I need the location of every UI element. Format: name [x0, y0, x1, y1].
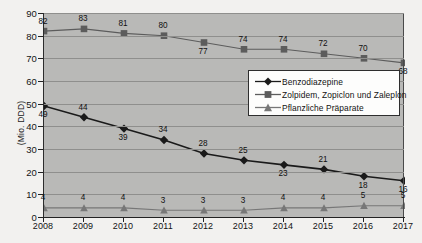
data-point-marker: [80, 113, 88, 121]
data-point-label: 49: [38, 110, 47, 119]
gridline: [44, 36, 404, 37]
x-tick-label: 2013: [233, 221, 253, 231]
x-tick-label: 2008: [33, 221, 53, 231]
y-tick-label: 70: [11, 53, 37, 64]
y-tick-mark: [38, 81, 43, 82]
x-tick-label: 2010: [113, 221, 133, 231]
data-point-label: 23: [278, 169, 287, 178]
gridline: [44, 58, 404, 59]
y-axis-tick-labels: 0102030405060708090: [9, 0, 37, 243]
data-point-marker: [321, 51, 328, 58]
data-point-label: 3: [241, 196, 246, 205]
square-marker-icon: [254, 88, 282, 101]
data-point-marker: [240, 156, 248, 164]
x-tick-label: 2009: [73, 221, 93, 231]
data-point-marker: [81, 26, 88, 33]
data-point-marker: [280, 161, 288, 169]
data-point-label: 82: [38, 17, 47, 26]
x-axis-line: [43, 217, 405, 219]
gridline: [44, 126, 404, 127]
x-tick-label: 2017: [393, 221, 413, 231]
y-tick-mark: [38, 149, 43, 150]
x-tick-mark: [163, 218, 164, 222]
y-tick-mark: [38, 172, 43, 173]
data-point-label: 39: [118, 133, 127, 142]
legend-label-zolpidem: Zolpidem, Zopiclon und Zaleplon: [282, 90, 407, 100]
data-point-label: 21: [318, 155, 327, 164]
data-point-marker: [360, 172, 368, 180]
data-point-label: 4: [281, 193, 286, 202]
data-point-label: 28: [198, 139, 207, 148]
y-tick-label: 60: [11, 76, 37, 87]
chart-legend: Benzodiazepine Zolpidem, Zopiclon und Za…: [248, 70, 400, 116]
data-point-label: 77: [198, 47, 207, 56]
x-tick-label: 2014: [273, 221, 293, 231]
y-tick-mark: [38, 36, 43, 37]
x-tick-mark: [243, 218, 244, 222]
data-point-marker: [241, 46, 248, 53]
data-point-label: 18: [358, 181, 367, 190]
x-tick-mark: [323, 218, 324, 222]
data-point-marker: [44, 28, 47, 35]
y-tick-mark: [38, 58, 43, 59]
x-tick-mark: [123, 218, 124, 222]
y-tick-label: 30: [11, 144, 37, 155]
data-point-label: 5: [401, 191, 406, 200]
x-tick-mark: [403, 218, 404, 222]
x-tick-mark: [363, 218, 364, 222]
triangle-marker-icon: [254, 101, 282, 114]
x-tick-label: 2012: [193, 221, 213, 231]
x-tick-mark: [283, 218, 284, 222]
y-tick-label: 50: [11, 98, 37, 109]
gridline: [44, 172, 404, 173]
x-tick-label: 2016: [353, 221, 373, 231]
data-point-label: 80: [158, 21, 167, 30]
chart-container: (Mio. DDD) 0102030405060708090 200820092…: [0, 0, 422, 243]
legend-label-benzodiazepine: Benzodiazepine: [282, 77, 343, 87]
data-point-label: 34: [158, 125, 167, 134]
y-tick-label: 90: [11, 8, 37, 19]
x-tick-label: 2015: [313, 221, 333, 231]
x-tick-mark: [83, 218, 84, 222]
series-line-0: [44, 106, 404, 181]
y-tick-mark: [38, 104, 43, 105]
data-point-label: 3: [201, 196, 206, 205]
data-point-label: 83: [78, 14, 87, 23]
gridline: [44, 13, 404, 14]
series-line-2: [44, 206, 404, 211]
data-point-label: 70: [358, 44, 367, 53]
data-point-label: 72: [318, 39, 327, 48]
data-point-marker: [200, 149, 208, 157]
data-point-label: 5: [361, 191, 366, 200]
data-point-label: 4: [81, 193, 86, 202]
data-point-marker: [281, 46, 288, 53]
y-tick-mark: [38, 194, 43, 195]
data-point-marker: [160, 136, 168, 144]
legend-item-zolpidem: Zolpidem, Zopiclon und Zaleplon: [254, 88, 394, 101]
data-point-label: 74: [238, 35, 247, 44]
data-point-label: 44: [78, 103, 87, 112]
diamond-marker-icon: [254, 75, 282, 88]
y-tick-mark: [38, 13, 43, 14]
legend-label-pflanzliche: Pflanzliche Präparate: [282, 103, 364, 113]
data-point-label: 25: [238, 146, 247, 155]
gridline: [44, 194, 404, 195]
y-tick-label: 10: [11, 189, 37, 200]
legend-item-pflanzliche: Pflanzliche Präparate: [254, 101, 394, 114]
x-tick-mark: [43, 218, 44, 222]
data-point-label: 4: [121, 193, 126, 202]
y-tick-mark: [38, 126, 43, 127]
x-tick-mark: [203, 218, 204, 222]
data-point-label: 81: [118, 19, 127, 28]
y-tick-label: 20: [11, 166, 37, 177]
y-tick-label: 80: [11, 30, 37, 41]
data-point-label: 74: [278, 35, 287, 44]
gridline: [44, 149, 404, 150]
y-tick-label: 40: [11, 121, 37, 132]
x-tick-label: 2011: [153, 221, 173, 231]
data-point-label: 4: [321, 193, 326, 202]
legend-item-benzodiazepine: Benzodiazepine: [254, 75, 394, 88]
data-point-marker: [201, 39, 208, 46]
data-point-label: 3: [161, 196, 166, 205]
